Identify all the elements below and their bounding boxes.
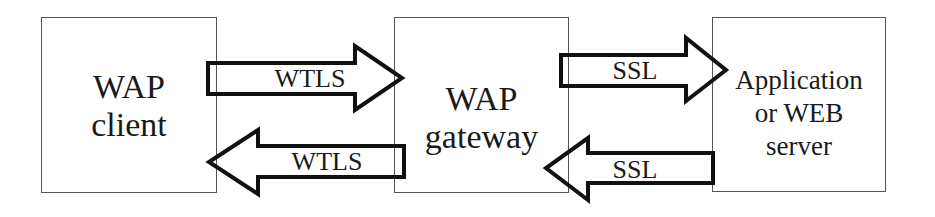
arrows-layer bbox=[0, 0, 935, 217]
edge-label: SSL bbox=[590, 58, 680, 84]
edge-label: WTLS bbox=[255, 66, 365, 92]
edge-label: SSL bbox=[590, 157, 680, 183]
edge-label: WTLS bbox=[272, 149, 382, 175]
